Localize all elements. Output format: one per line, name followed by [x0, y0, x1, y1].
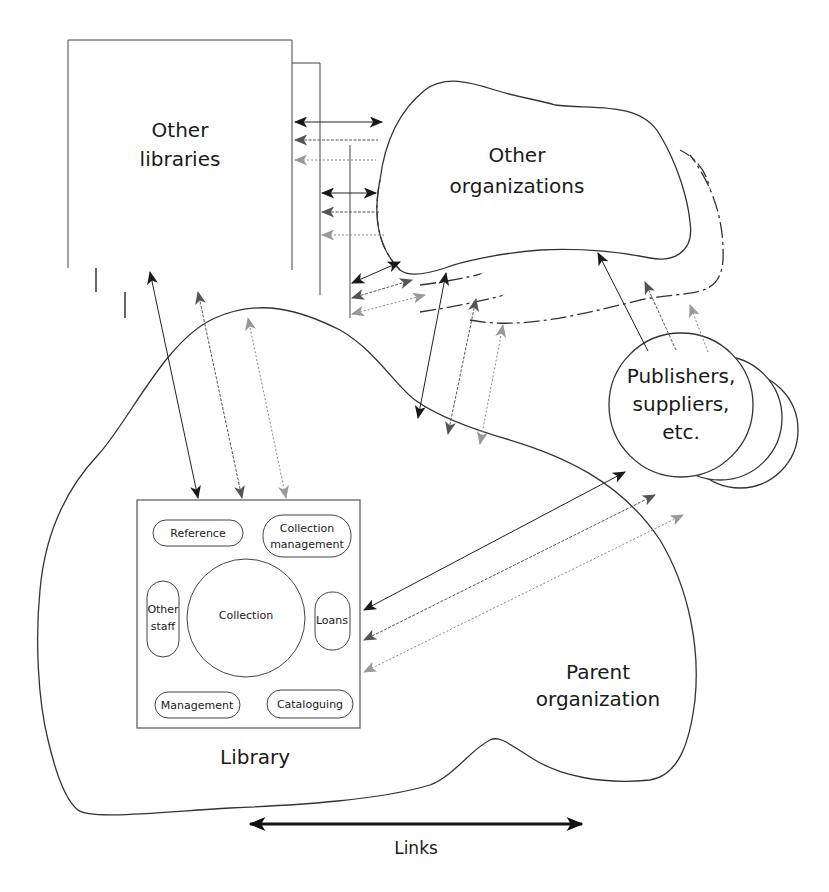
library-label: Library: [220, 745, 290, 769]
publishers-label-line1: Publishers,: [627, 364, 736, 388]
parent-organization-label-line1: Parent: [566, 660, 630, 684]
unit-cataloguing-label: Cataloguing: [277, 698, 343, 711]
other-organizations-label-line2: organizations: [450, 174, 585, 198]
unit-other-staff: [147, 581, 179, 657]
other-organizations-label-line1: Other: [489, 143, 547, 167]
unit-reference-label: Reference: [170, 527, 226, 540]
unit-loans-label: Loans: [316, 614, 348, 627]
publishers-node: Publishers, suppliers, etc.: [609, 333, 798, 488]
other-organizations-node: Other organizations: [377, 81, 723, 323]
unit-collection-management-label-2: management: [270, 538, 344, 551]
other-libraries-node: Other libraries: [68, 40, 350, 318]
other-libraries-label-line2: libraries: [140, 147, 221, 171]
unit-other-staff-label-2: staff: [151, 620, 176, 633]
unit-collection-label: Collection: [219, 609, 273, 622]
publishers-label-line3: etc.: [662, 420, 700, 444]
unit-collection-management-label-1: Collection: [280, 522, 334, 535]
legend-label: Links: [394, 838, 438, 858]
library-context-diagram: Other libraries Other organizations Pare…: [0, 0, 829, 892]
other-libraries-label-line1: Other: [152, 118, 210, 142]
publishers-label-line2: suppliers,: [633, 392, 730, 416]
legend: Links: [250, 824, 582, 858]
unit-management-label: Management: [161, 699, 234, 712]
unit-other-staff-label-1: Other: [147, 603, 179, 616]
parent-organization-label-line2: organization: [536, 687, 660, 711]
